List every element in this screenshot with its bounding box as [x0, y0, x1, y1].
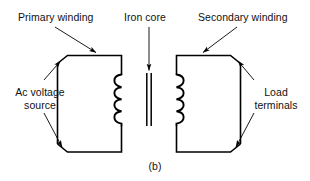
leader-primary-winding — [55, 27, 96, 53]
label-load-terminals: Load terminals — [248, 86, 304, 111]
leader-secondary-winding — [203, 27, 237, 53]
label-ac-voltage-source-line2: source — [10, 99, 70, 112]
transformer-figure: Primary winding Iron core Secondary wind… — [0, 0, 310, 181]
label-ac-voltage-source-line1: Ac voltage — [10, 86, 70, 99]
label-secondary-winding: Secondary winding — [198, 11, 288, 24]
leader-load-bottom — [236, 113, 254, 147]
figure-caption: (b) — [0, 160, 310, 173]
label-ac-voltage-source: Ac voltage source — [10, 86, 70, 111]
leader-ac-source-bottom — [44, 113, 62, 147]
label-load-terminals-line1: Load — [248, 86, 304, 99]
secondary-winding-loop — [177, 56, 241, 153]
secondary-coil — [177, 75, 184, 126]
primary-coil — [114, 75, 121, 126]
label-primary-winding: Primary winding — [18, 11, 93, 24]
label-iron-core: Iron core — [124, 11, 166, 24]
iron-core-laminations — [147, 73, 151, 126]
label-load-terminals-line2: terminals — [248, 99, 304, 112]
